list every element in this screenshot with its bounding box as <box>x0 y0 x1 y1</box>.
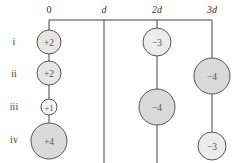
charge-position-diagram: 0 d 2d 3d i ii iii iv +2 +2 +1 +4 −3 −4 … <box>0 0 233 163</box>
row-label-i: i <box>13 36 16 47</box>
charge-i-0: +2 <box>37 30 61 54</box>
charge-value: −3 <box>152 38 162 48</box>
charge-iii-2d: −4 <box>139 89 175 125</box>
charge-iv-3d: −3 <box>198 132 226 160</box>
charge-iii-0: +1 <box>41 99 57 115</box>
charge-value: +4 <box>44 137 54 147</box>
row-label-iii: iii <box>10 101 19 112</box>
charge-value: +2 <box>44 38 54 48</box>
charge-value: +2 <box>44 69 54 79</box>
row-label-iv: iv <box>10 134 18 145</box>
tick-label-2d: 2d <box>152 4 163 15</box>
charge-ii-3d: −4 <box>194 58 230 94</box>
tick-label-3d: 3d <box>206 4 218 15</box>
charge-value: −4 <box>152 103 162 113</box>
charge-i-2d: −3 <box>143 28 171 56</box>
charge-value: −3 <box>207 142 217 152</box>
tick-label-d: d <box>102 4 108 15</box>
charge-value: +1 <box>44 103 53 113</box>
tick-label-0: 0 <box>47 4 52 15</box>
charge-iv-0: +4 <box>31 123 67 159</box>
row-label-ii: ii <box>11 68 17 79</box>
charge-ii-0: +2 <box>37 61 61 85</box>
charge-value: −4 <box>207 72 217 82</box>
